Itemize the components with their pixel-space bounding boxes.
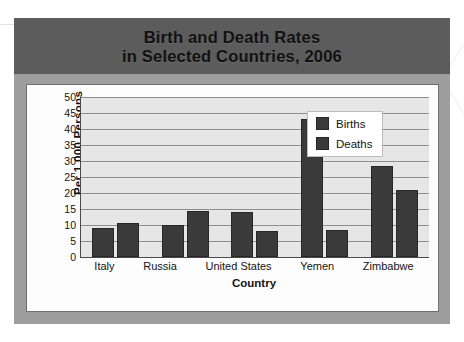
y-axis-tick-20: 20 (64, 188, 76, 199)
y-axis-tick-10: 10 (64, 220, 76, 231)
legend-item-deaths[interactable]: Deaths (316, 137, 372, 150)
y-axis-tick-5: 5 (70, 236, 76, 247)
bar-group-italy (92, 97, 139, 257)
chart-title-line-2: in Selected Countries, 2006 (122, 47, 342, 66)
chart-card: Per 1,000 Persons 50454035302520151050 I… (26, 84, 439, 312)
y-axis-tick-0: 0 (70, 252, 76, 263)
bar-births-united-states[interactable] (231, 212, 253, 257)
x-axis-tick-yemen: Yemen (300, 260, 334, 272)
y-axis-tick-labels: 50454035302520151050 (54, 97, 76, 257)
x-axis-tick-united-states: United States (206, 260, 272, 272)
x-axis-title: Country (80, 277, 428, 289)
chart-title-line-1: Birth and Death Rates (144, 28, 321, 47)
y-axis-tick-45: 45 (64, 108, 76, 119)
legend-label-deaths: Deaths (336, 138, 372, 150)
y-axis-tick-50: 50 (64, 92, 76, 103)
plot-wrapper: 50454035302520151050 ItalyRussiaUnited S… (54, 97, 428, 293)
legend-label-births: Births (336, 118, 365, 130)
y-axis-tick-15: 15 (64, 204, 76, 215)
legend-item-births[interactable]: Births (316, 117, 372, 130)
bar-births-italy[interactable] (92, 228, 114, 257)
x-axis-tick-italy: Italy (94, 260, 114, 272)
y-axis-tick-40: 40 (64, 124, 76, 135)
y-axis-tick-25: 25 (64, 172, 76, 183)
page-edge-artifact (0, 24, 15, 69)
bar-births-russia[interactable] (162, 225, 184, 257)
y-axis-tick-35: 35 (64, 140, 76, 151)
x-axis-tick-zimbabwe: Zimbabwe (363, 260, 414, 272)
x-axis-tick-russia: Russia (143, 260, 177, 272)
bar-births-zimbabwe[interactable] (371, 166, 393, 257)
bar-group-united-states (231, 97, 278, 257)
x-axis-tick-labels: ItalyRussiaUnited StatesYemenZimbabwe (80, 260, 428, 272)
bar-deaths-russia[interactable] (187, 211, 209, 257)
bar-deaths-yemen[interactable] (326, 230, 348, 257)
legend-swatch-deaths-icon (316, 137, 329, 150)
y-axis-tick-30: 30 (64, 156, 76, 167)
chart-legend: BirthsDeaths (307, 111, 383, 157)
legend-swatch-births-icon (316, 117, 329, 130)
bar-deaths-united-states[interactable] (256, 231, 278, 257)
bar-deaths-zimbabwe[interactable] (396, 190, 418, 257)
bar-group-russia (162, 97, 209, 257)
chart-title-banner: Birth and Death Rates in Selected Countr… (14, 18, 450, 74)
bar-deaths-italy[interactable] (117, 223, 139, 257)
